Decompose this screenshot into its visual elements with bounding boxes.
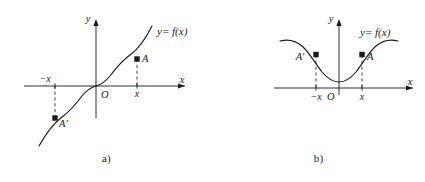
- axis-y-label-b: y: [328, 13, 334, 24]
- panel-b-caption: b): [212, 152, 425, 164]
- function-label-a: y= f(x): [156, 25, 188, 38]
- point-label-a-right: A: [141, 53, 149, 64]
- point-a-right: [134, 56, 139, 61]
- x-axis-b: [274, 85, 413, 90]
- origin-label-b: O: [327, 91, 335, 102]
- figure-root: x y O −x x A A′ y= f(x) a): [0, 0, 425, 182]
- tick-label-pos-a: x: [134, 88, 140, 99]
- point-a-left: [52, 115, 57, 120]
- point-label-b-right: A: [366, 51, 374, 62]
- point-b-right: [359, 52, 364, 57]
- panel-a-caption: a): [0, 152, 213, 164]
- y-axis-b: [336, 19, 341, 95]
- tick-label-neg-a: −x: [39, 73, 51, 84]
- point-b-left: [313, 52, 318, 57]
- axis-x-label-a: x: [179, 74, 185, 85]
- x-axis-a: [24, 83, 185, 88]
- panel-a: x y O −x x A A′ y= f(x) a): [0, 0, 213, 182]
- origin-label-a: O: [101, 89, 109, 100]
- y-axis-a: [93, 19, 98, 118]
- axis-y-label-a: y: [85, 13, 91, 24]
- point-label-b-left: A′: [295, 51, 305, 62]
- tick-label-neg-b: −x: [310, 91, 322, 102]
- point-label-a-left: A′: [58, 118, 68, 129]
- axis-x-label-b: x: [407, 76, 413, 87]
- panel-b: x y O −x x A A′ y= f(x) b): [212, 0, 425, 182]
- function-label-b: y= f(x): [359, 26, 391, 39]
- tick-label-pos-b: x: [359, 91, 365, 102]
